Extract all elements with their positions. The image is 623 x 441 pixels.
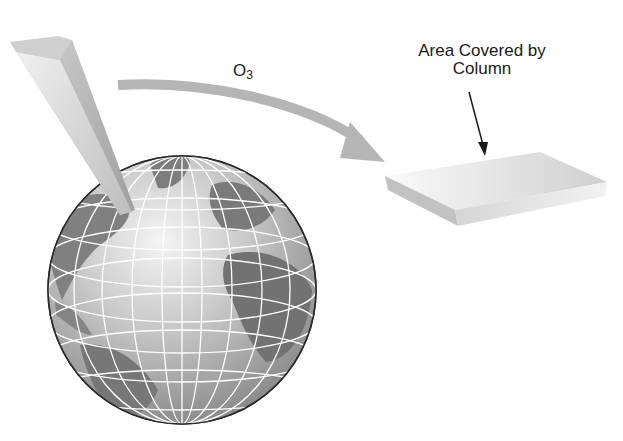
area-label-line2: Column	[382, 60, 582, 78]
globe	[48, 153, 316, 424]
transfer-arrow	[118, 84, 385, 162]
area-label-line1: Area Covered by	[382, 42, 582, 60]
ozone-label: O3	[233, 62, 253, 82]
area-slab	[385, 152, 607, 226]
area-label: Area Covered by Column	[382, 42, 582, 78]
pointer-arrow	[469, 92, 488, 156]
ozone-column	[10, 36, 135, 215]
